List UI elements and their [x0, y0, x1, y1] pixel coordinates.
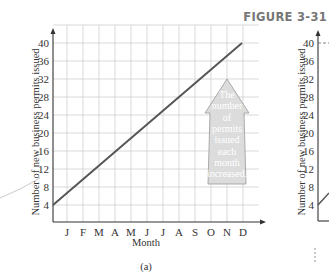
x-tick-label: O: [207, 226, 215, 238]
annotation-text-line: permits: [212, 123, 242, 134]
x-axis-label: Month: [132, 237, 161, 248]
x-axis-arrowhead: [260, 220, 266, 225]
x-tick-label: N: [223, 226, 231, 238]
annotation-text-line: increased.: [207, 168, 247, 179]
annotation-text-line: number: [212, 100, 243, 111]
x-tick-label: A: [175, 226, 183, 238]
series: [318, 193, 329, 205]
annotation-text-line: of: [223, 112, 232, 123]
y-tick-label: 8: [44, 181, 50, 193]
x-tick-label: J: [65, 226, 70, 238]
figure-title: FIGURE 3-31: [243, 10, 327, 24]
y-axis-arrowhead: [316, 30, 321, 36]
panel-a-label: (a): [140, 261, 152, 273]
chart-panel-b-partial: 481216202428323640 Number of new busines…: [296, 30, 329, 262]
x-tick-label: A: [111, 226, 119, 238]
x-tick-label: S: [192, 226, 198, 238]
y-tick-label: 4: [44, 199, 50, 211]
y-tick-label: 4: [309, 199, 315, 211]
x-tick-label: D: [239, 226, 247, 238]
y-tick-label: 40: [303, 37, 315, 49]
annotation-text-line: issued: [215, 134, 240, 145]
y-tick-label: 40: [38, 37, 50, 49]
annotation-text-line: month: [214, 157, 240, 168]
x-tick-label: M: [94, 226, 104, 238]
chart-panel-a: 481216202428323640 JFMAMJJASOND Thenumbe…: [30, 25, 266, 248]
y-axis-label: Number of new business permits issued: [296, 48, 307, 216]
figure: FIGURE 3-31 481216202428323640 JFMAMJJAS…: [0, 0, 329, 274]
annotation-text-line: each: [218, 146, 236, 157]
y-axis-arrowhead: [51, 28, 56, 34]
series-line: [318, 193, 329, 205]
y-tick-label: 8: [309, 181, 315, 193]
axes: [315, 30, 329, 262]
x-tick-label: F: [80, 226, 86, 238]
y-axis-label: Number of new business permits issued: [30, 48, 41, 216]
annotation-arrow: Thenumberofpermitsissuedeachmonthincreas…: [205, 79, 249, 184]
x-tick-label: J: [161, 226, 166, 238]
annotation-text-line: The: [219, 89, 235, 100]
